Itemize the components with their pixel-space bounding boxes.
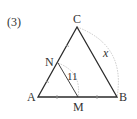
label-A: A	[27, 90, 36, 104]
problem-number: (3)	[7, 15, 21, 29]
triangle-diagram: (3) C N A B M 11 x	[0, 0, 137, 119]
label-N: N	[45, 55, 54, 69]
label-C: C	[73, 12, 81, 26]
label-B: B	[119, 90, 127, 104]
label-x: x	[102, 46, 109, 60]
label-NM-length: 11	[67, 70, 78, 82]
label-M: M	[73, 100, 84, 114]
